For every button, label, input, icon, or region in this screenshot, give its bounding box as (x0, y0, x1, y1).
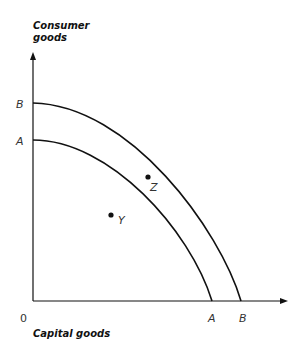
y-axis-title-line2: goods (33, 32, 67, 43)
point-y-label: Y (118, 214, 126, 227)
point-z-label: Z (149, 181, 158, 194)
x-intercept-label-a: A (207, 312, 216, 325)
y-intercept-label-a: A (15, 135, 24, 148)
y-axis-title-line1: Consumer (33, 20, 91, 31)
origin-label: 0 (20, 312, 27, 325)
point-y-dot (108, 212, 113, 217)
x-axis-title: Capital goods (33, 328, 110, 339)
y-intercept-label-b: B (16, 98, 24, 111)
ppf-diagram: Consumer goods B A 0 A B Capital goods Z… (0, 0, 302, 358)
x-intercept-label-b: B (239, 312, 247, 325)
y-axis-arrow-icon (30, 52, 36, 60)
ppf-curve-b (33, 103, 241, 301)
point-z-dot (145, 174, 150, 179)
x-axis-arrow-icon (280, 298, 288, 304)
